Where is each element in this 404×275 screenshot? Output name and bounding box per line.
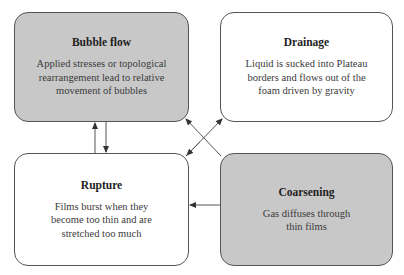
node-bubble-flow: Bubble flow Applied stresses or topologi… [14,12,189,122]
node-description: Liquid is sucked into Plateau borders an… [231,57,382,98]
node-title: Rupture [81,179,122,191]
arrow-drainage-to-rupture [187,142,200,155]
node-title: Coarsening [278,186,334,198]
node-description: Applied stresses or topological rearrang… [25,57,178,98]
node-description: Gas diffuses through thin films [231,207,382,234]
arrow-rupture-to-drainage [186,119,222,156]
node-title: Bubble flow [72,36,131,48]
node-description: Films burst when they become too thin an… [25,200,178,241]
node-rupture: Rupture Films burst when they become too… [14,153,189,266]
arrow-coarsening-to-bubble-flow [186,119,221,156]
node-coarsening: Coarsening Gas diffuses through thin fil… [220,153,393,266]
node-title: Drainage [284,36,329,48]
node-drainage: Drainage Liquid is sucked into Plateau b… [220,12,393,122]
